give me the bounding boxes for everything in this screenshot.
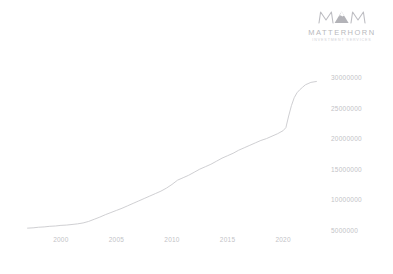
data-series-line [28, 81, 317, 228]
y-tick-label: 10000000 [331, 196, 362, 203]
x-tick-label: 2010 [164, 236, 179, 243]
x-tick-label: 2000 [53, 236, 68, 243]
x-tick-label: 2005 [109, 236, 124, 243]
chart-screenshot: MATTERHORN INVESTMENT SERVICES 500000010… [0, 0, 393, 274]
y-tick-label: 20000000 [331, 135, 362, 142]
y-tick-label: 25000000 [331, 105, 362, 112]
x-tick-label: 2015 [220, 236, 235, 243]
y-tick-label: 5000000 [331, 227, 358, 234]
x-tick-label: 2020 [275, 236, 290, 243]
y-tick-label: 15000000 [331, 166, 362, 173]
chart-plot-area: 5000000100000001500000020000000250000003… [0, 0, 393, 274]
y-tick-label: 30000000 [331, 74, 362, 81]
